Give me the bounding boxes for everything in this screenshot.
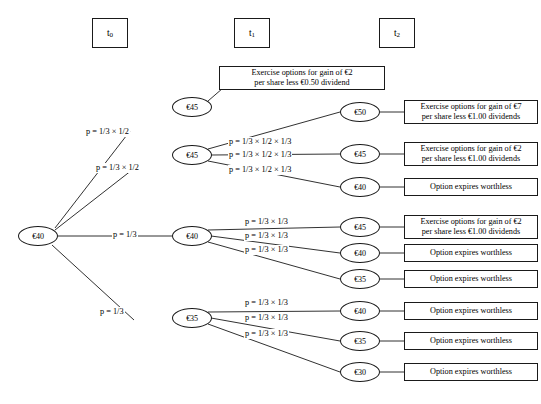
outcome-text-line: Exercise options for gain of €2 [420,144,521,155]
price-node-t1b: €45 [172,145,212,165]
price-node-t1a: €45 [172,97,212,117]
probability-label-p10: p = 1/3 × 1/3 [244,245,289,255]
outcome-box-box3: Exercise options for gain of €2per share… [404,142,538,166]
price-node-t2f: €35 [340,269,380,289]
price-node-t2b: €45 [340,144,380,164]
tree-edge [208,311,340,312]
outcome-box-box6: Option expires worthless [404,244,538,262]
probability-label-p3: p = 1/3 [112,230,138,240]
outcome-text-line: per share less €1.00 dividends [422,154,520,165]
outcome-box-box2: Exercise options for gain of €7per share… [404,100,538,124]
probability-label-p2: p = 1/3 × 1/2 [95,163,140,173]
price-node-t2h: €35 [340,331,380,351]
outcome-box-box10: Option expires worthless [404,363,538,381]
outcome-text-line: Option expires worthless [430,367,512,378]
outcome-box-box9: Option expires worthless [404,332,538,350]
price-node-t2a: €50 [340,102,380,122]
probability-label-p12: p = 1/3 × 1/3 [244,313,289,323]
outcome-text-line: Exercise options for gain of €7 [420,102,521,113]
outcome-text-line: Exercise options for gain of €2 [251,68,352,79]
outcome-text-line: per share less €1.00 dividends [422,112,520,123]
tree-edge [208,227,340,230]
outcome-text-line: Option expires worthless [430,274,512,285]
period-subscript: 0 [110,31,114,39]
outcome-text-line: Exercise options for gain of €2 [420,217,521,228]
outcome-text-line: Option expires worthless [430,306,512,317]
outcome-text-line: Option expires worthless [430,182,512,193]
probability-label-p13: p = 1/3 × 1/3 [244,329,289,339]
price-node-t2d: €45 [340,217,380,237]
price-node-t2g: €40 [340,301,380,321]
outcome-box-box7: Option expires worthless [404,270,538,288]
outcome-text-line: per share less €1.00 dividends [422,227,520,238]
outcome-box-box5: Exercise options for gain of €2per share… [404,215,538,239]
probability-label-p4: p = 1/3 [99,307,125,317]
probability-label-p1: p = 1/3 × 1/2 [85,127,130,137]
probability-label-p11: p = 1/3 × 1/3 [244,298,289,308]
price-node-t1d: €35 [172,308,212,328]
period-subscript: 1 [252,31,256,39]
probability-label-p5: p = 1/3 × 1/2 × 1/3 [228,137,292,147]
probability-label-p9: p = 1/3 × 1/3 [244,231,289,241]
period-subscript: 2 [397,31,401,39]
decision-tree-canvas: t0t1t2 p = 1/3 × 1/2p = 1/3 × 1/2p = 1/3… [0,0,541,404]
probability-label-p7: p = 1/3 × 1/2 × 1/3 [228,165,292,175]
outcome-text-line: Option expires worthless [430,336,512,347]
period-header-1: t1 [234,18,270,48]
tree-edge [55,170,132,230]
period-header-0: t0 [92,18,128,48]
outcome-box-box8: Option expires worthless [404,302,538,320]
outcome-text-line: Option expires worthless [430,248,512,259]
outcome-box-box1: Exercise options for gain of €2per share… [219,66,385,90]
probability-label-p8: p = 1/3 × 1/3 [244,217,289,227]
outcome-text-line: per share less €0.50 dividend [254,78,349,89]
period-header-2: t2 [379,18,415,48]
price-node-t2e: €40 [340,243,380,263]
outcome-box-box4: Option expires worthless [404,178,538,196]
price-node-t1c: €40 [172,226,212,246]
tree-edge [55,131,130,228]
probability-label-p6: p = 1/3 × 1/2 × 1/3 [228,150,292,160]
price-node-root: €40 [18,226,58,246]
price-node-t2i: €30 [340,362,380,382]
price-node-t2c: €40 [340,177,380,197]
